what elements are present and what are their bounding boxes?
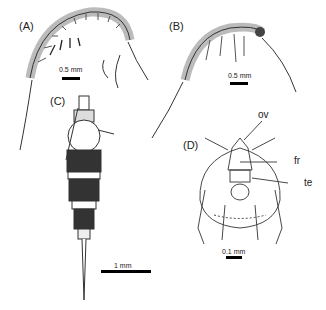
panel-label-b: (B) [169, 20, 184, 32]
scale-bar-label-b: 0.5 mm [228, 72, 251, 79]
figure-drawings [0, 0, 326, 310]
scale-bar-a [62, 77, 80, 80]
scale-bar-c [101, 270, 151, 273]
panel-b-specimen [152, 27, 296, 138]
panel-label-a: (A) [19, 20, 34, 32]
annotation-ov: ov [258, 109, 269, 120]
scale-bar-b [230, 82, 248, 85]
scale-bar-d [226, 256, 242, 259]
scale-bar-label-c: 1 mm [114, 262, 132, 269]
annotation-fr: fr [294, 155, 300, 166]
panel-label-d: (D) [183, 139, 198, 151]
panel-d-specimen [198, 121, 288, 244]
scale-bar-label-a: 0.5 mm [59, 66, 82, 73]
annotation-te: te [304, 177, 312, 188]
panel-label-c: (C) [50, 95, 65, 107]
scale-bar-label-d: 0.1 mm [222, 248, 245, 255]
